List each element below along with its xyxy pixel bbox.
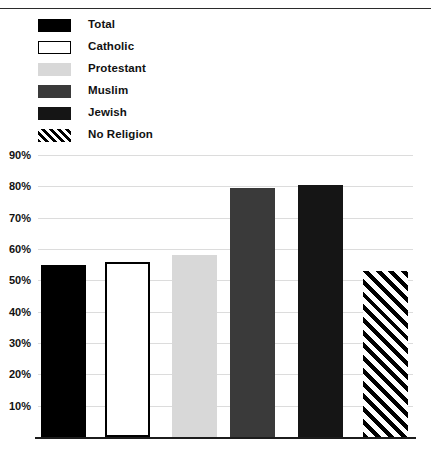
gridline xyxy=(38,249,413,250)
solid-black-swatch-icon xyxy=(38,19,71,32)
y-axis-tick-label: 20% xyxy=(9,369,31,380)
plot-area: 90%80%70%60%50%40%30%20%10% xyxy=(38,155,413,437)
bar-total[interactable] xyxy=(41,265,86,437)
gridline xyxy=(38,155,413,156)
legend-item[interactable]: Catholic xyxy=(38,36,338,58)
y-axis-tick-label: 80% xyxy=(9,181,31,192)
y-axis-tick-label: 40% xyxy=(9,306,31,317)
bar-chart-figure: TotalCatholicProtestantMuslimJewishNo Re… xyxy=(0,0,431,458)
bar-catholic[interactable] xyxy=(105,262,150,437)
gridline xyxy=(38,218,413,219)
header-divider xyxy=(0,8,431,9)
y-axis-tick-label: 60% xyxy=(9,244,31,255)
legend-item-label: Catholic xyxy=(88,41,134,53)
gridline xyxy=(38,343,413,344)
legend-item-label: Jewish xyxy=(88,107,127,119)
legend-item-label: Muslim xyxy=(88,85,128,97)
bar-muslim[interactable] xyxy=(230,188,275,437)
bar-jewish[interactable] xyxy=(298,185,343,437)
chart-legend: TotalCatholicProtestantMuslimJewishNo Re… xyxy=(38,14,338,146)
y-axis-tick-label: 50% xyxy=(9,275,31,286)
bar-no-religion[interactable] xyxy=(363,271,408,437)
near-black-swatch-icon xyxy=(38,107,71,120)
y-axis-tick-label: 30% xyxy=(9,338,31,349)
gridline xyxy=(38,312,413,313)
gridline xyxy=(38,406,413,407)
legend-item[interactable]: Jewish xyxy=(38,102,338,124)
gridline xyxy=(38,186,413,187)
diagonal-hatch-swatch-icon xyxy=(38,129,71,142)
outline-swatch-icon xyxy=(38,41,71,54)
legend-item-label: Total xyxy=(88,19,115,31)
dark-gray-swatch-icon xyxy=(38,85,71,98)
bar-protestant[interactable] xyxy=(172,255,217,437)
legend-item-label: No Religion xyxy=(88,129,153,141)
light-gray-swatch-icon xyxy=(38,63,71,76)
y-axis-tick-label: 10% xyxy=(9,400,31,411)
x-axis-baseline xyxy=(35,437,416,439)
legend-item-label: Protestant xyxy=(88,63,146,75)
legend-item[interactable]: Total xyxy=(38,14,338,36)
gridline xyxy=(38,374,413,375)
y-axis-tick-label: 70% xyxy=(9,212,31,223)
legend-item[interactable]: No Religion xyxy=(38,124,338,146)
y-axis-tick-label: 90% xyxy=(9,150,31,161)
legend-item[interactable]: Protestant xyxy=(38,58,338,80)
gridline xyxy=(38,280,413,281)
legend-item[interactable]: Muslim xyxy=(38,80,338,102)
